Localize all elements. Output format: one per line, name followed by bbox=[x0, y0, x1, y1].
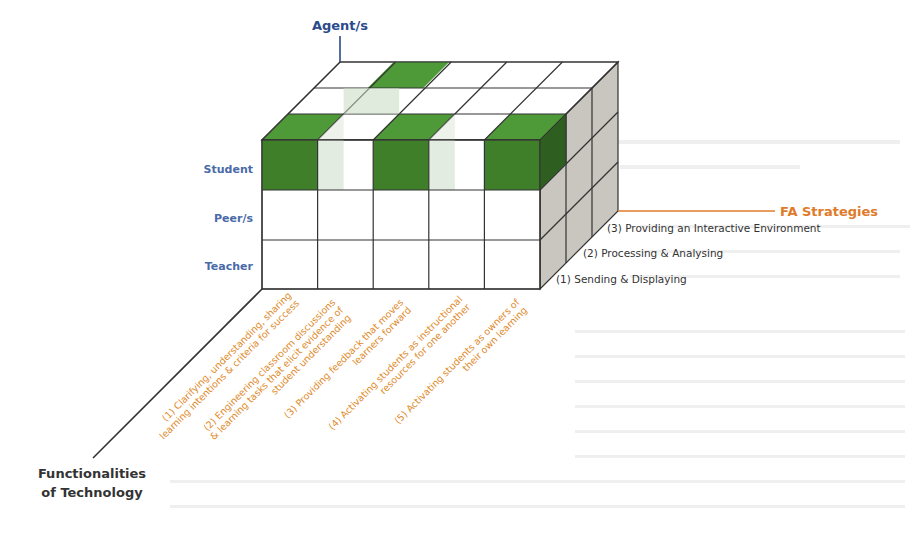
fa-strategies-axis-title: FA Strategies bbox=[780, 204, 878, 219]
agent-row-label-peers: Peer/s bbox=[214, 212, 253, 225]
cell-student-f3 bbox=[373, 140, 429, 190]
cube-front-face bbox=[262, 140, 540, 289]
functionalities-axis-title-line1: Functionalities bbox=[38, 466, 146, 481]
agent-row-label-student: Student bbox=[204, 163, 253, 176]
functionalities-axis-title-line2: of Technology bbox=[41, 485, 143, 500]
agent-row-label-teacher: Teacher bbox=[205, 260, 254, 273]
cell-student-f5 bbox=[484, 140, 540, 190]
fa-layer-label-3: (3) Providing an Interactive Environment bbox=[607, 222, 821, 234]
fa-layer-label-1: (1) Sending & Displaying bbox=[556, 273, 687, 285]
functionalities-axis-line bbox=[93, 289, 262, 458]
agent-axis-title: Agent/s bbox=[312, 18, 368, 33]
cell-student-f1 bbox=[262, 140, 318, 190]
fa-layer-label-2: (2) Processing & Analysing bbox=[583, 247, 723, 259]
fa-technology-cube-diagram: Agent/s bbox=[0, 0, 914, 533]
